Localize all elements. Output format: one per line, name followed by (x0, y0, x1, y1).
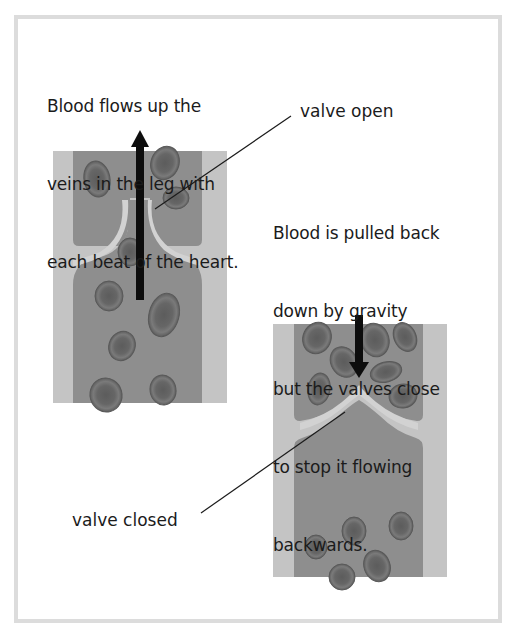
label-valve-closed: valve closed (72, 509, 178, 531)
caption-line: Blood is pulled back (273, 220, 440, 246)
caption-gravity: Blood is pulled back down by gravity but… (273, 168, 440, 584)
caption-upward-flow: Blood flows up the veins in the leg with… (47, 41, 238, 301)
caption-line: Blood flows up the (47, 93, 238, 119)
caption-line: to stop it flowing (273, 454, 440, 480)
caption-line: veins in the leg with (47, 171, 238, 197)
label-valve-open: valve open (300, 100, 394, 122)
caption-line: each beat of the heart. (47, 249, 238, 275)
caption-line: down by gravity (273, 298, 440, 324)
caption-line: but the valves close (273, 376, 440, 402)
caption-line: backwards. (273, 532, 440, 558)
